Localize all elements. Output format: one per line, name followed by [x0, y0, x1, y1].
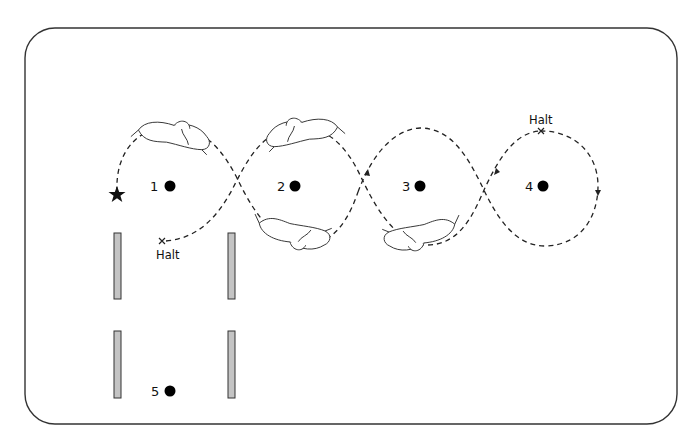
halt-label: Halt — [156, 248, 180, 262]
halt-label: Halt — [529, 113, 553, 127]
arena-frame — [25, 28, 677, 424]
arena-diagram: Halt Halt 1 2 3 4 5 — [0, 0, 692, 443]
marker-label: 4 — [525, 179, 533, 194]
marker-dot — [290, 181, 301, 192]
marker-dot — [415, 181, 426, 192]
marker-label: 2 — [277, 179, 285, 194]
pole — [114, 233, 121, 299]
marker-label: 5 — [151, 384, 159, 399]
marker-dot — [538, 181, 549, 192]
marker-label: 3 — [402, 179, 410, 194]
marker-dot — [165, 181, 176, 192]
marker-label: 1 — [150, 179, 158, 194]
pole — [114, 331, 121, 398]
marker-dot — [165, 386, 176, 397]
pole — [228, 233, 235, 299]
pole — [228, 331, 235, 398]
